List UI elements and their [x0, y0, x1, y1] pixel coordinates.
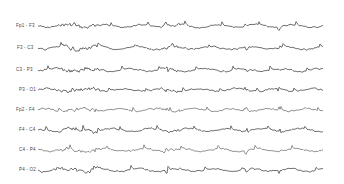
eeg-trace-3 [38, 66, 323, 73]
eeg-traces [0, 0, 344, 184]
eeg-trace-8 [38, 166, 323, 174]
eeg-trace-5 [38, 107, 323, 113]
eeg-trace-7 [38, 145, 323, 155]
channel-label-p4-o2: P4 - O2 [19, 167, 36, 172]
channel-label-f3-c3: F3 - C3 [17, 45, 33, 50]
channel-label-c4-p4: C4 - P4 [19, 147, 36, 152]
eeg-trace-4 [38, 87, 323, 93]
channel-label-p3-o1: P3 - O1 [19, 87, 36, 92]
channel-label-f4-c4: F4 - C4 [19, 127, 35, 132]
eeg-trace-6 [38, 125, 323, 133]
channel-label-c3-p3: C3 - P3 [16, 67, 33, 72]
channel-label-fp2-f4: Fp2 - F4 [16, 107, 35, 112]
eeg-trace-1 [38, 21, 323, 31]
channel-label-fp1-f3: Fp1 - F3 [16, 23, 35, 28]
eeg-trace-2 [38, 42, 323, 51]
